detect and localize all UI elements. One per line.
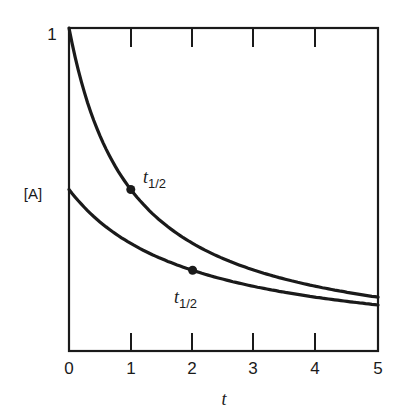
half-life-marker <box>126 185 135 194</box>
y-tick-label: 1 <box>47 25 56 44</box>
x-tick-label: 1 <box>126 359 135 378</box>
x-ticks-top <box>131 28 315 47</box>
x-tick-label: 3 <box>248 359 257 378</box>
x-ticks-bottom <box>131 333 315 351</box>
half-life-chart: 0 1 2 3 4 5 1 [A] t t1/2 t1/2 <box>0 0 400 419</box>
half-life-annotation-lower: t1/2 <box>174 287 197 311</box>
series-a0-1-curve <box>69 28 378 297</box>
series-a0-half-curve <box>69 190 378 306</box>
x-tick-label: 4 <box>310 359 319 378</box>
half-life-marker <box>188 266 197 275</box>
x-tick-label: 0 <box>64 359 73 378</box>
x-tick-label: 5 <box>373 359 382 378</box>
plot-frame <box>69 28 378 351</box>
half-life-annotation-upper: t1/2 <box>143 167 166 191</box>
x-tick-label: 2 <box>187 359 196 378</box>
x-axis-label: t <box>221 389 227 409</box>
y-axis-label: [A] <box>24 185 42 202</box>
